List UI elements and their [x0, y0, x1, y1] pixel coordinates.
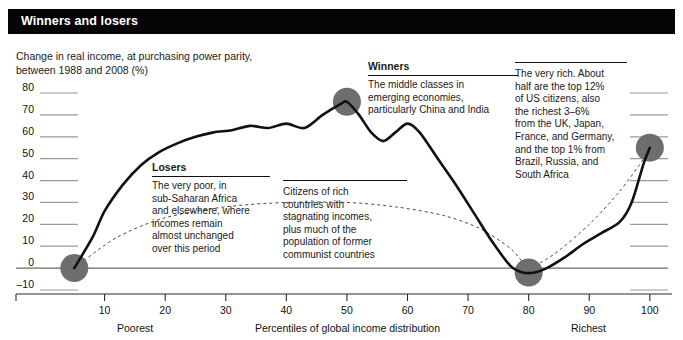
x-tick-label: 90 — [574, 304, 604, 316]
annotation-losers-body: The very poor, in sub-Saharan Africa and… — [152, 180, 270, 256]
x-tick-label: 70 — [453, 304, 483, 316]
annotation-veryrich-rule — [515, 62, 627, 63]
x-tick-label: 30 — [211, 304, 241, 316]
annotation-veryrich: The very rich. About half are the top 12… — [515, 68, 631, 181]
annotation-winners: Winners The middle classes in emerging e… — [368, 60, 518, 117]
x-tick-label: 50 — [332, 304, 362, 316]
x-tick-label: 40 — [271, 304, 301, 316]
x-tick-label: 60 — [392, 304, 422, 316]
annotation-veryrich-body: The very rich. About half are the top 12… — [515, 68, 631, 181]
x-tick-label: 10 — [90, 304, 120, 316]
y-tick-label: 80 — [8, 81, 34, 93]
annotation-losers: Losers The very poor, in sub-Saharan Afr… — [152, 161, 270, 256]
y-tick-label: 0 — [8, 256, 34, 268]
annotation-losers-heading: Losers — [152, 161, 270, 177]
x-axis-ticks — [16, 294, 650, 301]
annotation-stagnating-body: Citizens of rich countries with stagnati… — [283, 186, 411, 262]
y-tick-label: 50 — [8, 147, 34, 159]
annotation-winners-body: The middle classes in emerging economies… — [368, 79, 518, 117]
x-tick-label: 20 — [150, 304, 180, 316]
y-tick-label: 60 — [8, 125, 34, 137]
x-caption-richest: Richest — [571, 322, 606, 334]
y-tick-label: 30 — [8, 190, 34, 202]
annotation-stagnating: Citizens of rich countries with stagnati… — [283, 186, 411, 262]
y-tick-label: 10 — [8, 234, 34, 246]
y-tick-label: 40 — [8, 169, 34, 181]
x-tick-label: 100 — [635, 304, 665, 316]
chart-page: Winners and losers Change in real income… — [0, 0, 683, 340]
x-caption-poorest: Poorest — [117, 322, 153, 334]
y-tick-label: –10 — [8, 278, 34, 290]
x-tick-label: 80 — [514, 304, 544, 316]
x-caption-center: Percentiles of global income distributio… — [255, 322, 440, 334]
annotation-winners-heading: Winners — [368, 60, 518, 76]
annotation-stagnating-rule — [283, 180, 407, 181]
y-tick-label: 20 — [8, 212, 34, 224]
y-tick-label: 70 — [8, 103, 34, 115]
